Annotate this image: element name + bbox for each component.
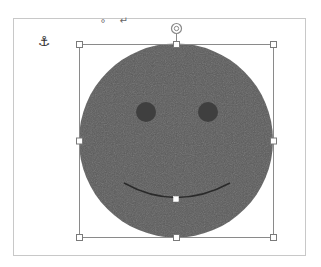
- rotate-icon[interactable]: [172, 24, 182, 34]
- right-eye: [198, 102, 218, 122]
- resize-handle-top-right[interactable]: [271, 42, 277, 48]
- left-eye: [136, 102, 156, 122]
- resize-handle-left[interactable]: [77, 138, 83, 144]
- face-circle[interactable]: [79, 44, 273, 238]
- resize-handle-bottom-right[interactable]: [271, 235, 277, 241]
- smile-adjust-handle[interactable]: [174, 197, 179, 202]
- resize-handle-bottom-left[interactable]: [77, 235, 83, 241]
- drawing-canvas: [0, 0, 321, 267]
- resize-handle-top[interactable]: [174, 42, 180, 48]
- resize-handle-right[interactable]: [271, 138, 277, 144]
- resize-handle-top-left[interactable]: [77, 42, 83, 48]
- resize-handle-bottom[interactable]: [174, 235, 180, 241]
- smiley-shape[interactable]: [79, 44, 273, 238]
